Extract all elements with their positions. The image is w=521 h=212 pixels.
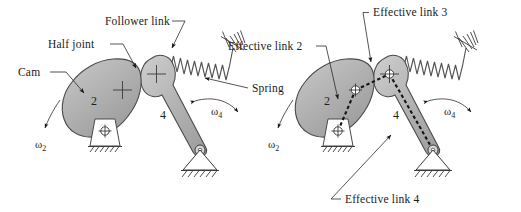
spring-coil-left bbox=[170, 48, 233, 80]
follower-ground-hatching-left bbox=[182, 171, 217, 178]
label-effective-link-3: Effective link 3 bbox=[373, 6, 448, 18]
spring-coil-right bbox=[403, 48, 466, 80]
link-number-cam-left: 2 bbox=[91, 94, 97, 108]
spring-assembly-left bbox=[170, 31, 245, 81]
link-number-follower-left: 4 bbox=[160, 108, 166, 122]
follower-ground-pivot-right bbox=[414, 145, 452, 177]
follower-ground-triangle-left bbox=[183, 150, 217, 170]
cam-ground-hatching-left bbox=[90, 147, 119, 153]
right-mechanism-group: Effective link 3 Effective link 2 Effect… bbox=[228, 6, 478, 205]
link-number-cam-right: 2 bbox=[324, 94, 330, 108]
label-cam: Cam bbox=[18, 66, 40, 78]
figure-canvas: Follower link Half joint Cam Spring 2 4 bbox=[0, 0, 521, 212]
omega-4-label-left: ω4 bbox=[211, 105, 222, 120]
cam-follower-figure: Follower link Half joint Cam Spring 2 4 bbox=[0, 0, 521, 212]
follower-ground-hatching-right bbox=[415, 171, 450, 178]
label-half-joint: Half joint bbox=[48, 38, 95, 51]
follower-ground-pivot-left bbox=[181, 145, 219, 177]
omega-2-label-right: ω2 bbox=[268, 138, 279, 153]
cam-ground-hatching-right bbox=[323, 147, 352, 153]
label-spring: Spring bbox=[252, 82, 284, 95]
omega-4-label-right: ω4 bbox=[444, 105, 455, 120]
link-number-follower-right: 4 bbox=[393, 108, 399, 122]
omega-2-label-left: ω2 bbox=[35, 138, 46, 153]
label-follower-link: Follower link bbox=[105, 15, 170, 27]
follower-ground-triangle-right bbox=[416, 150, 450, 170]
label-effective-link-2: Effective link 2 bbox=[228, 40, 303, 52]
cam-body-left bbox=[62, 59, 141, 152]
spring-assembly-right bbox=[403, 31, 478, 81]
cam-body-right bbox=[295, 59, 374, 152]
label-effective-link-4: Effective link 4 bbox=[345, 193, 420, 205]
